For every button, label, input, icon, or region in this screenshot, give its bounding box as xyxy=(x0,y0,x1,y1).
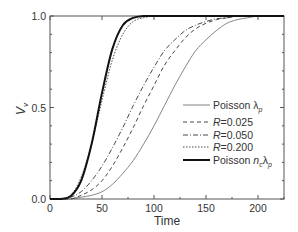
svg-text:Vv: Vv xyxy=(14,102,30,115)
x-tick-label: 100 xyxy=(145,202,163,214)
legend-item: Poisson ncλp xyxy=(183,154,272,169)
x-tick-label: 0 xyxy=(47,202,53,214)
y-axis-title: Vv xyxy=(14,102,30,115)
chart: l 050100150200 0.00.51.0 Time Vv Poisson… xyxy=(0,0,298,232)
legend-label: R=0.050 xyxy=(213,129,253,141)
y-axis-tick-labels: 0.00.51.0 xyxy=(31,10,46,205)
y-tick-label: 0.0 xyxy=(31,193,46,205)
y-tick-label: 0.5 xyxy=(31,102,46,114)
legend-item: R=0.025 xyxy=(183,116,253,128)
x-tick-label: 200 xyxy=(249,202,267,214)
legend-label: Poisson λp xyxy=(213,99,263,114)
x-axis-title: Time xyxy=(154,214,181,228)
legend: Poisson λpR=0.025R=0.050R=0.200Poisson n… xyxy=(183,99,272,169)
y-tick-label: 1.0 xyxy=(31,10,46,22)
legend-label: R=0.200 xyxy=(213,141,253,153)
legend-item: R=0.050 xyxy=(183,129,253,141)
y-axis-title-sub: v xyxy=(21,102,30,107)
legend-item: Poisson λp xyxy=(183,99,263,114)
legend-label: R=0.025 xyxy=(213,116,253,128)
x-tick-label: 50 xyxy=(96,202,108,214)
x-tick-label: 150 xyxy=(197,202,215,214)
x-axis-tick-labels: 050100150200 xyxy=(47,202,267,214)
legend-item: R=0.200 xyxy=(183,141,253,153)
legend-label: Poisson ncλp xyxy=(213,154,272,169)
